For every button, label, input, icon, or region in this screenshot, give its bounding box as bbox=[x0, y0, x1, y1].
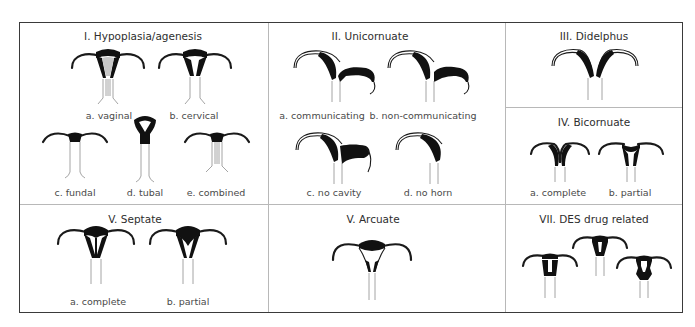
label-cervical: b. cervical bbox=[170, 110, 219, 121]
label-septate-partial: b. partial bbox=[167, 296, 210, 307]
uterus-diagram-septate-partial bbox=[146, 224, 230, 290]
uterus-diagram-combined bbox=[182, 128, 252, 183]
uterus-diagram-des-3 bbox=[614, 254, 674, 300]
label-non-communicating: b. non-communicating bbox=[369, 110, 476, 121]
uterus-diagram-tubal bbox=[130, 114, 160, 186]
uterus-diagram-no-cavity bbox=[292, 130, 382, 186]
uterus-diagram-vaginal bbox=[68, 46, 148, 111]
divider-col-2 bbox=[505, 23, 506, 312]
label-combined: e. combined bbox=[187, 187, 246, 198]
divider-row bbox=[20, 204, 682, 205]
uterus-diagram-arcuate bbox=[329, 236, 415, 302]
uterus-diagram-bicornuate-complete bbox=[528, 140, 592, 184]
uterus-diagram-septate-complete bbox=[54, 224, 138, 290]
label-tubal: d. tubal bbox=[127, 187, 163, 198]
divider-right-upper bbox=[505, 107, 682, 108]
uterus-diagram-communicating bbox=[290, 48, 380, 104]
label-bicornuate-complete: a. complete bbox=[530, 187, 586, 198]
label-no-horn: d. no horn bbox=[404, 187, 453, 198]
label-vaginal: a. vaginal bbox=[86, 110, 132, 121]
uterus-diagram-cervical bbox=[155, 46, 235, 111]
section-title-didelphus: III. Didelphus bbox=[560, 30, 628, 42]
section-title-hypoplasia: I. Hypoplasia/agenesis bbox=[84, 30, 202, 42]
label-no-cavity: c. no cavity bbox=[307, 187, 362, 198]
section-title-unicornuate: II. Unicornuate bbox=[332, 30, 409, 42]
uterus-diagram-fundal bbox=[40, 128, 110, 183]
section-title-arcuate: V. Arcuate bbox=[346, 213, 399, 225]
section-title-bicornuate: IV. Bicornuate bbox=[558, 116, 630, 128]
uterus-diagram-non-communicating bbox=[384, 48, 474, 104]
label-communicating: a. communicating bbox=[279, 110, 365, 121]
divider-col-1 bbox=[268, 23, 269, 312]
section-title-des: VII. DES drug related bbox=[539, 213, 649, 225]
label-fundal: c. fundal bbox=[54, 187, 95, 198]
label-bicornuate-partial: b. partial bbox=[609, 187, 652, 198]
uterus-diagram-didelphus bbox=[548, 44, 642, 102]
uterus-diagram-no-horn bbox=[392, 130, 452, 186]
uterus-diagram-bicornuate-partial bbox=[596, 140, 666, 184]
label-septate-complete: a. complete bbox=[70, 296, 126, 307]
